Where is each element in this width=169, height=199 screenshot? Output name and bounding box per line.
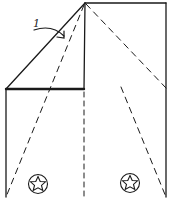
star-circle-icon — [29, 175, 48, 194]
fold-arrow-icon — [34, 28, 64, 38]
diagram-canvas — [0, 0, 169, 199]
origami-diagram: 1 — [0, 0, 169, 199]
valley-fold-left — [6, 5, 84, 197]
flap-edge — [6, 3, 85, 89]
star-circle-icon — [121, 174, 140, 193]
center-fold-solid — [84, 3, 85, 89]
valley-fold-right-upper — [86, 4, 166, 88]
